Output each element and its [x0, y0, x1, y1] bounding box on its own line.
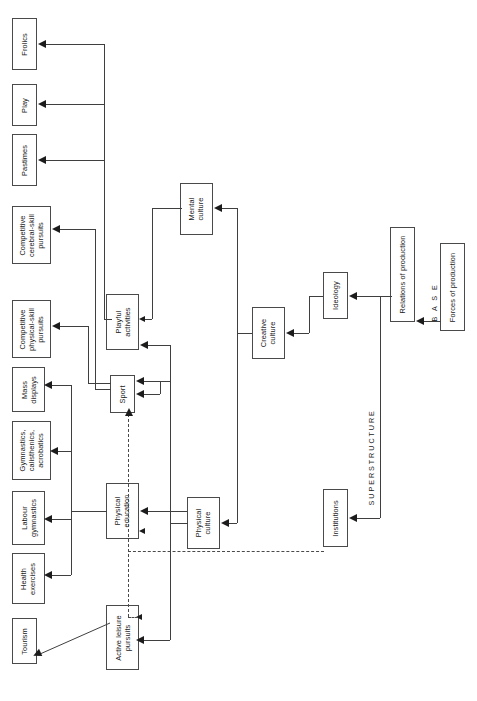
edge-creativeculture-mentalculture [222, 208, 237, 209]
edge-mentalculture-playful-bottom [144, 319, 152, 320]
node-active-leisure-pursuits-label: Active leisure pursuits [114, 615, 132, 660]
arrowhead-sport-a [136, 377, 144, 385]
node-labour-gymnastics[interactable]: Labour gymnastics [12, 491, 45, 545]
arrowhead-relations-of-production [416, 317, 424, 325]
arrowhead-playful-from-physculture [140, 341, 148, 349]
node-frolics[interactable]: Frolics [12, 18, 37, 70]
node-competitive-physical-skill-pursuits[interactable]: Competitive physical-skill pursuits [12, 300, 51, 358]
edge-physed-trunk [71, 385, 72, 575]
arrowhead-pastimes [38, 156, 46, 164]
arrowhead-physical-education [140, 507, 148, 515]
edge-physculture-physed [148, 511, 187, 512]
edge-mentalculture-playful-top [152, 208, 182, 209]
edge-creativeculture-trunk [237, 208, 238, 523]
arrowhead-ideology [349, 292, 357, 300]
edge-relations-trunk-stub [380, 296, 392, 297]
edge-sport-physskill-stub [88, 383, 111, 384]
node-pastimes-label: Pastimes [20, 144, 29, 175]
band-label-base-text: B A S E [430, 262, 439, 322]
edge-physed-healthex [52, 575, 71, 576]
node-play-label: Play [20, 98, 29, 113]
node-mental-culture[interactable]: Mental culture [180, 183, 213, 235]
node-creative-culture-label: Creative culture [259, 319, 277, 347]
edge-physed-massdisplays [52, 385, 71, 386]
node-physical-culture[interactable]: Physical culture [187, 497, 220, 549]
arrowhead-mass-displays [44, 381, 52, 389]
edge-playful-frolics [46, 44, 104, 45]
edge-forces-relations [424, 321, 441, 322]
node-play[interactable]: Play [12, 84, 37, 126]
arrowhead-institutions [349, 514, 357, 522]
node-creative-culture[interactable]: Creative culture [252, 307, 285, 359]
edge-activeleisure-tourism [28, 620, 112, 666]
edge-physculture-playful [148, 345, 170, 346]
edge-sport-cerebral [60, 229, 95, 230]
arrowhead-physskill [52, 322, 60, 330]
edge-ideology-creative-riser [309, 296, 310, 333]
edge-sport-cerebral-stub [95, 389, 111, 390]
node-playful-activities[interactable]: Playful activities [106, 294, 139, 350]
node-playful-activities-label: Playful activities [114, 307, 132, 336]
edge-institutions-dashed-h [128, 551, 324, 552]
edge-physculture-sport-b [144, 394, 160, 395]
edge-physculture-activeleisure [144, 640, 170, 641]
node-institutions[interactable]: Institutions [323, 489, 348, 547]
node-mass-displays[interactable]: Mass displays [12, 367, 45, 412]
edge-ideology-creative-a [309, 296, 323, 297]
node-physical-education[interactable]: Physical education [106, 483, 139, 539]
edge-mentalculture-playful-trunk [152, 208, 153, 319]
edge-relations-trunk [380, 296, 381, 518]
edge-sport-physskill [60, 326, 88, 327]
edge-creativeculture-physculture [229, 523, 237, 524]
edge-physculture-sport-b-riser [160, 381, 161, 394]
node-institutions-label: Institutions [331, 500, 340, 537]
arrowhead-sport-b [136, 390, 144, 398]
node-sport-label: Sport [118, 385, 127, 403]
edge-relations-institutions [357, 518, 380, 519]
arrowhead-active-leisure [136, 636, 144, 644]
arrowhead-cerebral [52, 225, 60, 233]
node-physical-culture-label: Physical culture [194, 509, 212, 537]
arrowhead-play [38, 100, 46, 108]
node-ideology[interactable]: Ideology [323, 272, 348, 319]
arrowhead-health-exercises [44, 571, 52, 579]
edge-physculture-sport-a [156, 381, 170, 382]
arrowhead-gymnastics [50, 447, 58, 455]
band-label-superstructure: S U P E R S T R U C T U R E [296, 408, 446, 420]
edge-physculture-fan-trunk [170, 345, 171, 640]
arrowhead-labour-gymnastics [44, 515, 52, 523]
edge-playful-trunk [104, 44, 105, 319]
edge-playful-trunk-stub [104, 319, 112, 320]
node-competitive-cerebral-skill-pursuits-label: Competitive cerebral-skill pursuits [18, 214, 45, 257]
edge-physed-labourgym [52, 519, 71, 520]
edge-physed-trunk-stub [71, 511, 107, 512]
node-gymnastics-calisthenics-acrobatics-label: Gymnastics, calisthenics, acrobatics [18, 430, 45, 472]
edge-institutions-dashed-v [128, 414, 129, 617]
arrowhead-physical-culture [221, 519, 229, 527]
arrowhead-frolics [38, 40, 46, 48]
node-health-exercises[interactable]: Health exercises [12, 553, 45, 604]
node-competitive-cerebral-skill-pursuits[interactable]: Competitive cerebral-skill pursuits [12, 206, 51, 264]
edge-physculture-to-physculturebox [170, 523, 188, 524]
node-ideology-label: Ideology [331, 281, 340, 310]
arrowhead-creative-culture [286, 329, 294, 337]
node-frolics-label: Frolics [20, 33, 29, 55]
band-label-base: B A S E [404, 269, 464, 281]
edge-sport-cerebral-trunk [95, 229, 96, 389]
node-health-exercises-label: Health exercises [20, 562, 38, 594]
node-competitive-physical-skill-pursuits-label: Competitive physical-skill pursuits [18, 308, 45, 351]
node-mental-culture-label: Mental culture [187, 198, 205, 221]
edge-physculture-sport-a2 [144, 381, 156, 382]
node-gymnastics-calisthenics-acrobatics[interactable]: Gymnastics, calisthenics, acrobatics [12, 421, 51, 480]
edge-playful-pastimes [46, 160, 104, 161]
band-label-superstructure-text: S U P E R S T R U C T U R E [367, 356, 376, 506]
edge-playful-play [46, 104, 104, 105]
edge-sport-physskill-trunk [88, 326, 89, 383]
edge-institutions-dashed-activeleisure [128, 617, 138, 618]
node-mass-displays-label: Mass displays [19, 376, 37, 404]
node-pastimes[interactable]: Pastimes [12, 134, 37, 186]
edge-creativeculture-to-creativebox [237, 333, 252, 334]
diagram-canvas: Frolics Play Pastimes Competitive cerebr… [0, 0, 477, 701]
arrowhead-playful-from-mental [139, 316, 145, 322]
node-forces-of-production[interactable]: Forces of production [440, 243, 465, 331]
